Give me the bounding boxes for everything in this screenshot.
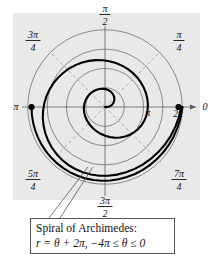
endpoint-dot-pi: [28, 104, 34, 110]
label-7pi-over-4-num: 7π: [174, 168, 185, 179]
label-2pi: 2π: [173, 109, 183, 119]
label-5pi-over-4-den: 4: [31, 181, 36, 192]
figure-container: π 2 3π 4 π 4 5π 4 7π 4 3π: [0, 0, 213, 258]
label-pi-inner: π: [146, 108, 151, 118]
label-3pi-over-4-den: 4: [31, 42, 36, 53]
label-pi-over-2-den: 2: [103, 16, 108, 27]
caption-equation: r = θ + 2π, −4π ≤ θ ≤ 0: [36, 236, 169, 251]
caption-box: Spiral of Archimedes: r = θ + 2π, −4π ≤ …: [30, 218, 175, 254]
label-3pi-over-4-num: 3π: [27, 29, 39, 40]
label-7pi-over-4-den: 4: [177, 181, 182, 192]
label-pi-over-2-num: π: [102, 3, 108, 14]
caption-title: Spiral of Archimedes:: [36, 221, 169, 236]
label-3pi-over-2-num: 3π: [99, 195, 111, 206]
label-pi-over-4-den: 4: [177, 42, 182, 53]
label-zero: 0: [203, 101, 208, 112]
label-5pi-over-4-num: 5π: [28, 168, 39, 179]
